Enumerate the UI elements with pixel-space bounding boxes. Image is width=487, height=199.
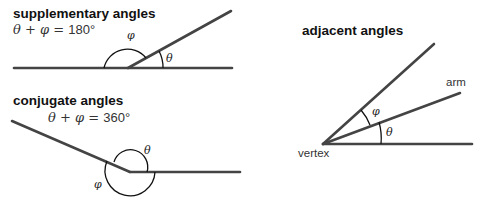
arm-label: arm bbox=[446, 76, 466, 88]
conjugate-angles-figure: conjugate angles θ + φ = 360° θ φ bbox=[12, 93, 240, 196]
theta-arc bbox=[379, 122, 381, 144]
phi-label: φ bbox=[94, 178, 102, 191]
adjacent-upper-arm bbox=[323, 44, 434, 144]
supplementary-title: supplementary angles bbox=[13, 6, 156, 21]
adjacent-angles-figure: adjacent angles θ φ arm vertex bbox=[298, 23, 472, 159]
theta-label: θ bbox=[166, 52, 173, 65]
phi-arc bbox=[361, 110, 370, 125]
angles-diagram: supplementary angles θ + φ = 180° φ θ co… bbox=[0, 0, 487, 199]
theta-label: θ bbox=[386, 126, 393, 139]
theta-arc bbox=[159, 51, 163, 68]
supplementary-equation: θ + φ = 180° bbox=[13, 22, 95, 37]
conjugate-title: conjugate angles bbox=[13, 93, 123, 108]
theta-label: θ bbox=[144, 144, 151, 157]
vertex-label: vertex bbox=[298, 147, 330, 159]
adjacent-title: adjacent angles bbox=[302, 23, 403, 38]
phi-label: φ bbox=[127, 29, 135, 42]
conjugate-equation: θ + φ = 360° bbox=[48, 110, 130, 125]
conjugate-arm bbox=[12, 121, 130, 172]
phi-label: φ bbox=[372, 105, 380, 118]
phi-arc bbox=[104, 49, 146, 68]
supplementary-angles-figure: supplementary angles θ + φ = 180° φ θ bbox=[13, 6, 232, 68]
